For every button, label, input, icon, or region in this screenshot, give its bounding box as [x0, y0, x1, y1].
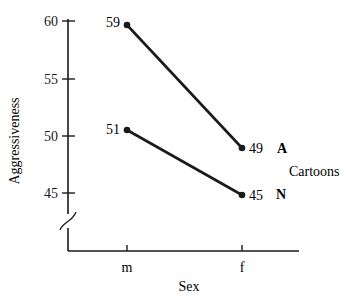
legend-title: Cartoons	[289, 164, 340, 179]
x-axis-title: Sex	[179, 279, 200, 294]
x-tick-label-m: m	[122, 260, 133, 275]
interaction-plot: 60 55 50 45 m f Sex Aggressiveness 59 49…	[0, 0, 350, 302]
y-tick-label: 60	[44, 14, 58, 29]
data-point	[239, 192, 246, 199]
data-point	[239, 145, 246, 152]
y-tick-labels: 60 55 50 45	[44, 14, 58, 201]
series-a-legend-label: A	[277, 141, 288, 156]
point-label: 51	[106, 122, 120, 137]
series-n-legend-label: N	[276, 187, 286, 202]
x-ticks	[127, 245, 242, 251]
point-label: 59	[106, 15, 120, 30]
point-label: 45	[249, 188, 263, 203]
y-tick-label: 55	[44, 72, 58, 87]
series-a-line	[127, 25, 242, 148]
series-n: 51 45 N	[106, 122, 286, 203]
y-tick-label: 50	[44, 129, 58, 144]
y-axis-title: Aggressiveness	[7, 97, 22, 184]
data-point	[124, 127, 131, 134]
point-label: 49	[249, 141, 263, 156]
series-n-line	[127, 130, 242, 195]
y-tick-label: 45	[44, 186, 58, 201]
axis-break-icon	[60, 212, 76, 230]
x-tick-label-f: f	[240, 260, 245, 275]
data-point	[124, 22, 131, 29]
